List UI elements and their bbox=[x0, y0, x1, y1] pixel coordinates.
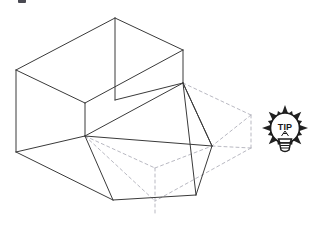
lower-long-slant bbox=[16, 152, 113, 200]
hidden-box-front-upper bbox=[212, 115, 251, 146]
top-rear-left-ridge bbox=[16, 18, 115, 70]
cut-face-left bbox=[85, 136, 113, 200]
top-rear-right-ridge bbox=[115, 18, 183, 50]
hidden-box-front-lower bbox=[212, 146, 251, 148]
cut-face-diagonal-b bbox=[183, 83, 196, 195]
figure-page: TIP bbox=[0, 0, 321, 234]
cut-face-right-lower bbox=[196, 146, 212, 195]
cut-face-diagonal-a bbox=[183, 83, 212, 146]
dashed-construction-lines bbox=[85, 83, 251, 214]
tip-badge-label: TIP bbox=[278, 122, 293, 132]
hidden-box-inner-slant-right bbox=[155, 146, 212, 168]
bulb-base bbox=[280, 143, 291, 152]
top-front-left-ridge bbox=[16, 70, 85, 103]
upper-slant-to-apex bbox=[115, 83, 183, 100]
solid-object-lines bbox=[16, 18, 212, 200]
isometric-drawing: TIP bbox=[0, 0, 321, 234]
ledge-top-run bbox=[85, 83, 183, 136]
ledge-rear-left bbox=[16, 136, 85, 152]
hidden-box-top-rear bbox=[183, 83, 251, 115]
lightbulb-tip-icon: TIP bbox=[262, 105, 308, 152]
